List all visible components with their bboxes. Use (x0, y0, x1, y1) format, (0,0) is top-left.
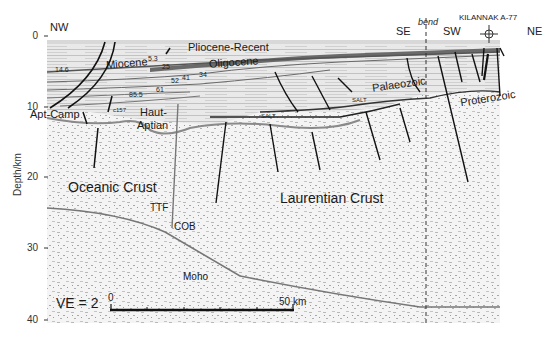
seismic-section-figure: 0 10 20 30 40 Depth/km NW SE bend SW NE … (0, 0, 553, 338)
label-oceanic-crust: Oceanic Crust (68, 180, 157, 194)
direction-ne: NE (527, 26, 542, 37)
age-label-52: 52 (171, 77, 179, 84)
age-label-c157: c157 (113, 107, 126, 113)
label-haut: Haut- (140, 107, 167, 118)
direction-sw: SW (443, 26, 461, 37)
label-cob: COB (174, 222, 196, 232)
depth-tick-30: 30 (14, 243, 38, 253)
label-moho: Moho (183, 272, 208, 282)
label-salt-1: SALT (261, 113, 276, 119)
label-pliocene-recent: Pliocene-Recent (188, 42, 269, 53)
age-label-5-3: 5.3 (148, 55, 158, 62)
age-label-14-6: 14.6 (55, 66, 69, 73)
label-ttf: TTF (150, 203, 168, 213)
age-label-25: 25 (162, 63, 170, 70)
direction-nw: NW (50, 22, 68, 33)
scale-bar-end: 50 km (279, 297, 306, 307)
well-name: KILANNAK A-77 (459, 14, 517, 22)
y-axis-title: Depth/km (12, 153, 23, 196)
age-label-34: 34 (199, 71, 207, 78)
vertical-exaggeration: VE = 2 (56, 296, 98, 310)
age-label-61: 61 (156, 86, 164, 93)
label-apt-camp: Apt-Camp (30, 109, 80, 120)
depth-tick-40: 40 (14, 315, 38, 325)
bend-label: bend (418, 18, 438, 27)
scale-bar-start: 0 (108, 293, 114, 303)
label-aptian: Aptian (137, 120, 168, 131)
direction-se: SE (396, 26, 411, 37)
age-label-41: 41 (182, 74, 190, 81)
label-salt-2: SALT (352, 97, 367, 103)
label-laurentian-crust: Laurentian Crust (280, 191, 384, 205)
age-label-85-5: 85.5 (129, 91, 143, 98)
depth-tick-0: 0 (14, 31, 38, 41)
seismic-section-graphic (0, 0, 553, 338)
